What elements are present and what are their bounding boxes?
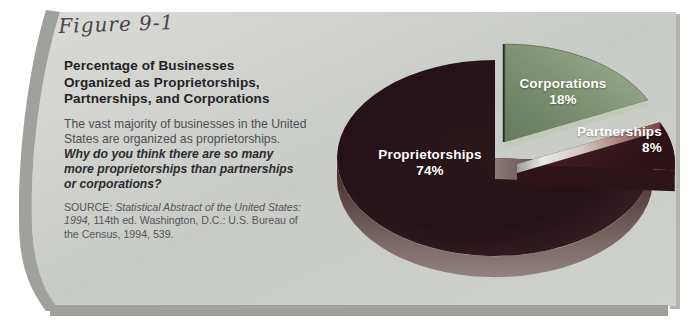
- figure-panel-container: Figure 9-1 Percentage of Businesses Orga…: [0, 0, 696, 334]
- text-column: Figure 9-1 Percentage of Businesses Orga…: [64, 14, 332, 241]
- figure-question: Why do you think there are so many more …: [64, 147, 332, 192]
- figure-title-line1: Percentage of Businesses: [64, 58, 332, 75]
- figure-title-line2: Organized as Proprietorships,: [64, 75, 332, 92]
- figure-title-line3: Partnerships, and Corporations: [64, 91, 332, 108]
- panel-border-bottom: [50, 305, 668, 316]
- figure-title: Percentage of Businesses Organized as Pr…: [64, 58, 332, 108]
- figure-source: SOURCE: Statistical Abstract of the Unit…: [64, 201, 332, 242]
- figure-description: The vast majority of businesses in the U…: [64, 117, 332, 147]
